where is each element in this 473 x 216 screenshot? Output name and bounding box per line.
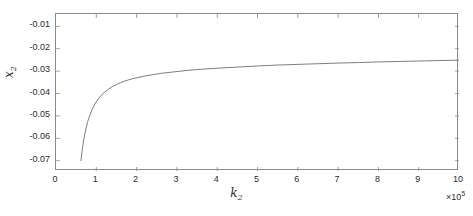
y-tick-label: -0.07 bbox=[29, 155, 50, 164]
x-tick-label: 8 bbox=[375, 175, 380, 184]
exponent-power: 5 bbox=[461, 190, 465, 197]
y-tick-label: -0.03 bbox=[29, 65, 50, 74]
x-tick-label: 3 bbox=[173, 175, 178, 184]
x-tick-label: 0 bbox=[52, 175, 57, 184]
y-axis-label-subscript: 2 bbox=[9, 66, 18, 71]
x-axis-label-base: k bbox=[230, 186, 237, 200]
plot-svg bbox=[56, 14, 459, 171]
x-axis-label-subscript: 2 bbox=[238, 193, 243, 202]
plot-area bbox=[55, 13, 458, 170]
y-tick-label: -0.06 bbox=[29, 132, 50, 141]
figure-canvas: -0.01-0.02-0.03-0.04-0.05-0.06-0.07 0123… bbox=[0, 0, 473, 216]
y-tick-label: -0.05 bbox=[29, 110, 50, 119]
x-tick-label: 1 bbox=[93, 175, 98, 184]
x-tick-label: 7 bbox=[335, 175, 340, 184]
data-series-group bbox=[81, 60, 459, 161]
axis-ticks bbox=[56, 14, 459, 171]
x-tick-label: 4 bbox=[214, 175, 219, 184]
x-tick-label: 10 bbox=[453, 175, 463, 184]
x-tick-label: 5 bbox=[254, 175, 259, 184]
x-axis-exponent-annotation: ×105 bbox=[446, 190, 465, 202]
y-axis-label: x2 bbox=[2, 66, 18, 78]
x-tick-label: 6 bbox=[294, 175, 299, 184]
y-tick-label: -0.02 bbox=[29, 43, 50, 52]
data-series-line bbox=[81, 60, 459, 161]
x-tick-label: 9 bbox=[415, 175, 420, 184]
y-axis-label-base: x bbox=[2, 71, 16, 78]
x-tick-label: 2 bbox=[133, 175, 138, 184]
y-tick-label: -0.04 bbox=[29, 88, 50, 97]
y-tick-label: -0.01 bbox=[29, 20, 50, 29]
exponent-base: ×10 bbox=[446, 192, 461, 202]
x-axis-label: k2 bbox=[0, 186, 473, 202]
